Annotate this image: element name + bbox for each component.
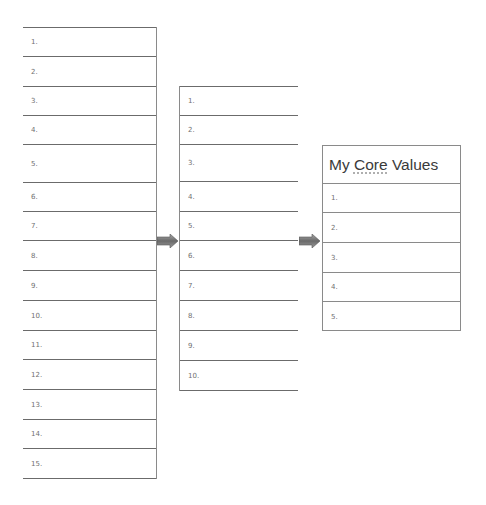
list-row[interactable]: 4. <box>180 181 298 211</box>
list-row[interactable]: 10. <box>180 360 298 390</box>
row-number: 2. <box>188 126 195 134</box>
list-row[interactable]: 4. <box>323 272 460 301</box>
row-number: 8. <box>31 252 38 260</box>
row-number: 4. <box>31 126 38 134</box>
divider <box>23 478 156 479</box>
list-row[interactable]: 2. <box>180 115 298 144</box>
list-row[interactable]: 1. <box>323 183 460 212</box>
list-row[interactable]: 5. <box>323 301 460 331</box>
row-number: 1. <box>31 38 38 46</box>
list-row[interactable]: 3. <box>323 242 460 272</box>
row-number: 11. <box>31 341 42 349</box>
row-number: 5. <box>31 160 38 168</box>
row-number: 6. <box>188 252 195 260</box>
list-row[interactable]: 5. <box>180 211 298 240</box>
row-number: 12. <box>31 371 42 379</box>
row-number: 9. <box>188 342 195 350</box>
row-number: 5. <box>331 313 338 321</box>
values-list-15: 1.2.3.4.5.6.7.8.9.10.11.12.13.14.15. <box>23 27 157 479</box>
list-row[interactable]: 2. <box>23 56 156 86</box>
row-number: 6. <box>31 193 38 201</box>
row-number: 2. <box>31 68 38 76</box>
row-number: 3. <box>188 159 195 167</box>
list-row[interactable]: 2. <box>323 212 460 242</box>
row-number: 4. <box>188 193 195 201</box>
list-row[interactable]: 3. <box>180 144 298 181</box>
list-row[interactable]: 10. <box>23 300 156 330</box>
row-number: 3. <box>31 97 38 105</box>
row-number: 13. <box>31 401 42 409</box>
row-number: 10. <box>188 372 199 380</box>
list-row[interactable]: 7. <box>23 211 156 240</box>
row-number: 7. <box>188 282 195 290</box>
row-number: 3. <box>331 254 338 262</box>
divider <box>180 390 298 391</box>
row-number: 5. <box>188 222 195 230</box>
list-row[interactable]: 9. <box>180 330 298 360</box>
row-number: 9. <box>31 282 38 290</box>
list-row[interactable]: 12. <box>23 359 156 389</box>
list-row[interactable]: 1. <box>180 86 298 115</box>
list-row[interactable]: 9. <box>23 270 156 300</box>
list-row[interactable]: 5. <box>23 144 156 182</box>
row-number: 15. <box>31 460 42 468</box>
row-number: 1. <box>188 97 195 105</box>
core-values-table: My Core Values 1.2.3.4.5. <box>322 145 461 331</box>
list-row[interactable]: 1. <box>23 27 156 56</box>
core-values-title: My Core Values <box>329 156 438 174</box>
row-number: 8. <box>188 312 195 320</box>
list-row[interactable]: 3. <box>23 86 156 115</box>
list-row[interactable]: 8. <box>23 240 156 270</box>
list-row[interactable]: 7. <box>180 270 298 300</box>
row-number: 10. <box>31 312 42 320</box>
row-number: 2. <box>331 224 338 232</box>
core-values-header: My Core Values <box>323 146 460 183</box>
values-list-10: 1.2.3.4.5.6.7.8.9.10. <box>179 86 298 391</box>
row-number: 7. <box>31 222 38 230</box>
list-row[interactable]: 11. <box>23 330 156 359</box>
row-number: 4. <box>331 283 338 291</box>
arrow-right-icon <box>157 234 178 248</box>
row-number: 14. <box>31 430 42 438</box>
list-row[interactable]: 15. <box>23 448 156 478</box>
list-row[interactable]: 8. <box>180 300 298 330</box>
arrow-right-icon <box>299 234 320 248</box>
list-row[interactable]: 6. <box>23 182 156 211</box>
list-row[interactable]: 6. <box>180 240 298 270</box>
list-row[interactable]: 14. <box>23 419 156 448</box>
list-row[interactable]: 4. <box>23 115 156 144</box>
row-number: 1. <box>331 194 338 202</box>
list-row[interactable]: 13. <box>23 389 156 419</box>
